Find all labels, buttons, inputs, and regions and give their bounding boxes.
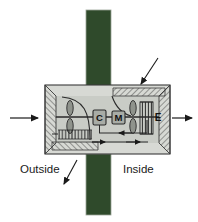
building-wall-lower <box>86 154 111 215</box>
ventilation-diagram: C M E Outside Inside <box>0 0 198 222</box>
exhaust-fan-blade-upper <box>130 101 136 116</box>
inside-label: Inside <box>123 163 154 175</box>
outside-label: Outside <box>20 163 60 175</box>
controller-box-letter: C <box>96 112 103 123</box>
bottom-baffle-hatched <box>52 142 98 150</box>
motor-box-letter: M <box>115 112 123 123</box>
building-wall-upper <box>86 10 111 86</box>
exchanger-label: E <box>155 112 162 123</box>
intake-fan-blade-upper <box>67 101 73 116</box>
top-baffle-hatched <box>113 88 165 96</box>
diagram-container: C M E Outside Inside <box>0 0 198 222</box>
spring-damper <box>58 130 92 139</box>
exhaust-fan-blade-lower <box>130 119 136 134</box>
